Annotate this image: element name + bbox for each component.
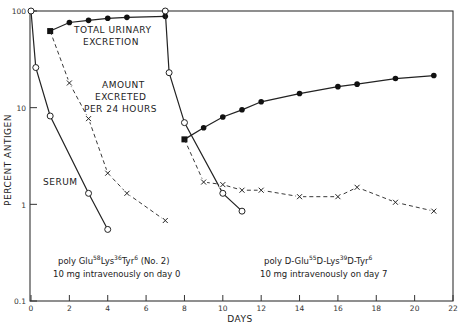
y-tick-0.1: 0.1 [14,297,26,306]
filled-circle-marker [431,73,437,79]
chart-labels: 100 10 1 0.1 PERCENT ANTIGEN DAYS TOTAL … [3,7,387,324]
antigen2-dose: 10 mg intravenously on day 7 [260,269,387,279]
x-marker [392,199,399,206]
x-tick-label: 18 [371,304,381,313]
y-tick-10: 10 [16,104,26,113]
x-marker [162,217,169,224]
chart: 0246810121416182022 100 10 1 0.1 PERCENT… [0,0,464,331]
open-circle-marker [105,226,111,232]
x-tick-label: 4 [105,304,110,313]
x-marker [354,184,361,191]
y-tick-1: 1 [21,201,26,210]
x-tick-label: 22 [448,304,458,313]
x-marker [239,187,246,194]
open-circle-marker [220,190,226,196]
x-marker [104,170,111,177]
open-circle-marker [47,113,53,119]
filled-circle-marker [105,16,111,22]
y-axis-label: PERCENT ANTIGEN [3,114,13,206]
x-axis-label: DAYS [227,314,252,324]
x-marker [430,208,437,215]
filled-square-marker [47,28,53,34]
x-marker [66,79,73,86]
filled-circle-marker [220,114,226,120]
x-tick-label: 2 [67,304,72,313]
annotation-serum: SERUM [43,177,78,187]
annotation-amount-3: PER 24 HOURS [84,104,157,114]
filled-circle-marker [67,20,73,26]
antigen1-label: poly Glu58Lys36Tyr6 (No. 2) [58,254,170,266]
antigen1-dose: 10 mg intravenously on day 0 [53,269,180,279]
open-circle-marker [28,8,34,14]
x-tick-label: 0 [29,304,34,313]
filled-circle-marker [124,15,130,21]
x-marker [258,187,265,194]
x-tick-label: 10 [218,304,228,313]
y-tick-100: 100 [12,7,27,16]
filled-circle-marker [86,18,92,24]
annotation-amount-2: EXCRETED [95,92,147,102]
x-marker [334,193,341,200]
filled-circle-marker [297,91,303,97]
annotation-amount-1: AMOUNT [102,80,145,90]
x-tick-label: 20 [410,304,420,313]
filled-circle-marker [239,107,245,113]
x-marker [296,193,303,200]
series-line [50,31,165,220]
x-tick-label: 16 [333,304,343,313]
x-marker [200,179,207,186]
x-tick-label: 12 [256,304,266,313]
antigen2-label: poly D-Glu55D-Lys39D-Tyr6 [264,254,373,266]
open-circle-marker [33,65,39,71]
annotation-total-urinary-2: EXCRETION [83,37,139,47]
open-circle-marker [162,8,168,14]
plot-frame: 0246810121416182022 [29,11,458,313]
open-circle-marker [181,120,187,126]
x-tick-label: 8 [182,304,187,313]
x-tick-label: 14 [295,304,305,313]
x-marker [123,190,130,197]
annotation-total-urinary-1: TOTAL URINARY [73,25,151,35]
open-circle-marker [86,190,92,196]
filled-circle-marker [258,99,264,105]
x-marker [219,181,226,188]
filled-circle-marker [335,84,341,90]
filled-circle-marker [201,125,207,131]
x-marker [85,115,92,122]
x-tick-label: 6 [144,304,149,313]
series-line [184,76,433,140]
open-circle-marker [166,70,172,76]
filled-circle-marker [354,81,360,87]
open-circle-marker [239,208,245,214]
filled-circle-marker [393,76,399,82]
